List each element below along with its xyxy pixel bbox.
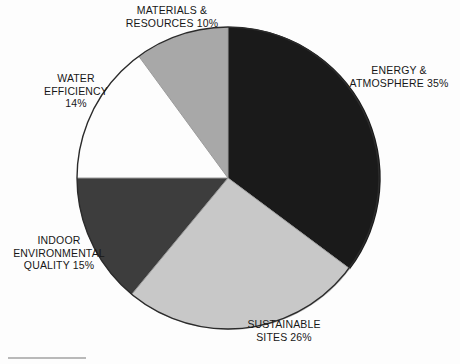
pie-label-energy-atmosphere: ENERGY & ATMOSPHERE 35% — [336, 64, 460, 89]
pie-chart-svg — [0, 0, 460, 364]
page-rule-divider — [8, 357, 86, 359]
pie-label-indoor-environmental-quality: INDOOR ENVIRONMENTAL QUALITY 15% — [0, 234, 120, 272]
pie-label-water-efficiency: WATER EFFICIENCY 14% — [24, 72, 128, 110]
pie-chart: MATERIALS & RESOURCES 10% WATER EFFICIEN… — [0, 0, 460, 364]
pie-label-materials-resources: MATERIALS & RESOURCES 10% — [104, 4, 240, 29]
pie-label-sustainable-sites: SUSTAINABLE SITES 26% — [214, 318, 354, 343]
